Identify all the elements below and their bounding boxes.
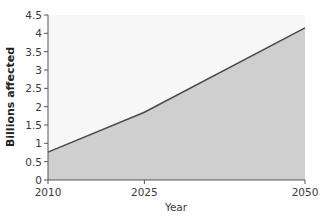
y-tick-label: 3.5 xyxy=(25,46,42,58)
y-tick-label: 0.5 xyxy=(25,156,42,168)
x-tick-label: 2025 xyxy=(131,186,158,198)
y-tick-label: 4.5 xyxy=(25,9,42,21)
x-tick-label: 2050 xyxy=(292,186,319,198)
y-tick-label: 2 xyxy=(35,101,42,113)
y-tick-label: 2.5 xyxy=(25,82,42,94)
chart: 00.511.522.533.544.5 201020252050 Year B… xyxy=(0,0,324,217)
y-tick-label: 0 xyxy=(35,174,42,186)
x-ticks: 201020252050 xyxy=(35,180,319,198)
x-axis-title: Year xyxy=(164,201,188,213)
x-tick-label: 2010 xyxy=(35,186,62,198)
y-ticks: 00.511.522.533.544.5 xyxy=(25,9,48,186)
y-tick-label: 4 xyxy=(35,27,42,39)
y-tick-label: 1.5 xyxy=(25,119,42,131)
y-tick-label: 3 xyxy=(35,64,42,76)
y-axis-title: Billions affected xyxy=(4,47,17,147)
y-tick-label: 1 xyxy=(35,137,42,149)
